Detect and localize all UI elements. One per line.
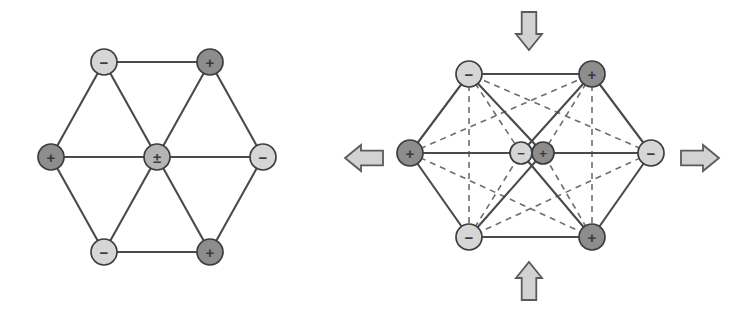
node-bottom-right-charge-label: +: [588, 229, 597, 246]
strained-cluster-node-top-left[interactable]: −: [456, 61, 482, 87]
strained-cluster-node-left[interactable]: +: [397, 140, 423, 166]
undistorted-cluster-node-center[interactable]: ±: [144, 144, 170, 170]
node-left-charge-label: +: [406, 145, 415, 162]
node-center-positive-charge-label: +: [539, 146, 547, 161]
strained-cluster-node-bottom-right[interactable]: +: [579, 224, 605, 250]
strained-cluster-node-center-positive[interactable]: +: [532, 142, 554, 164]
strained-cluster-node-bottom-left[interactable]: −: [456, 224, 482, 250]
node-bottom-right-charge-label: +: [206, 244, 215, 261]
node-center-charge-label: ±: [153, 149, 161, 166]
node-top-right-charge-label: +: [588, 66, 597, 83]
node-right-charge-label: −: [259, 149, 268, 166]
node-right-charge-label: −: [647, 145, 656, 162]
figure-root: −++±−−+−++−+−−+: [0, 0, 738, 310]
undistorted-cluster-node-bottom-right[interactable]: +: [197, 239, 223, 265]
cluster-diagram-canvas: −++±−−+−++−+−−+: [0, 0, 738, 310]
undistorted-cluster-node-top-left[interactable]: −: [91, 49, 117, 75]
undistorted-cluster-node-right[interactable]: −: [250, 144, 276, 170]
node-top-left-charge-label: −: [465, 66, 474, 83]
undistorted-cluster-node-bottom-left[interactable]: −: [91, 239, 117, 265]
node-top-right-charge-label: +: [206, 54, 215, 71]
node-left-charge-label: +: [47, 149, 56, 166]
node-top-left-charge-label: −: [100, 54, 109, 71]
node-center-negative-charge-label: −: [517, 146, 525, 161]
strained-cluster-node-top-right[interactable]: +: [579, 61, 605, 87]
node-bottom-left-charge-label: −: [100, 244, 109, 261]
node-bottom-left-charge-label: −: [465, 229, 474, 246]
undistorted-cluster-node-left[interactable]: +: [38, 144, 64, 170]
undistorted-cluster-node-top-right[interactable]: +: [197, 49, 223, 75]
strained-cluster-node-center-negative[interactable]: −: [510, 142, 532, 164]
strained-cluster-node-right[interactable]: −: [638, 140, 664, 166]
